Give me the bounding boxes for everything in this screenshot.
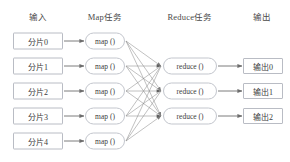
mapreduce-diagram: 输入Map任务Reduce任务输出 分片0分片1分片2分片3分片4 map ()…: [0, 0, 290, 162]
reduce-task-node-2: reduce (): [163, 108, 217, 125]
shuffle-arrowhead-0: [157, 64, 161, 68]
shuffle-line-m0-r1: [126, 41, 161, 91]
output-box-1-label: 输出1: [253, 86, 273, 97]
map-task-node-0-label: map (): [95, 37, 115, 46]
column-header-3-label: 输出: [253, 12, 271, 22]
reduce-task-node-1-label: reduce (): [177, 87, 204, 96]
input-split-box-1: 分片1: [13, 58, 63, 75]
input-split-box-1-label: 分片1: [28, 61, 48, 72]
map-task-node-2: map (): [85, 83, 125, 100]
map-task-node-4: map (): [85, 133, 125, 150]
shuffle-line-m3-r0: [126, 66, 161, 116]
shuffle-line-m4-r2: [126, 116, 161, 141]
column-header-0: 输入: [29, 10, 47, 22]
output-box-2: 输出2: [243, 108, 283, 124]
output-box-2-label: 输出2: [253, 111, 273, 122]
input-split-box-4-label: 分片4: [28, 136, 48, 147]
reduce-task-node-0-label: reduce (): [177, 62, 204, 71]
map-task-node-1: map (): [85, 58, 125, 75]
shuffle-line-m4-r0: [126, 66, 161, 141]
output-box-0: 输出0: [243, 58, 283, 74]
reduce-task-node-0: reduce (): [163, 58, 217, 75]
output-box-0-label: 输出0: [253, 61, 273, 72]
shuffle-line-m2-r0: [126, 66, 161, 91]
input-split-box-2-label: 分片2: [28, 86, 48, 97]
map-task-node-2-label: map (): [95, 87, 115, 96]
reduce-to-output-arrows: [218, 66, 242, 116]
column-header-3: 输出: [253, 10, 271, 22]
input-split-box-0-label: 分片0: [28, 36, 48, 47]
reduce-task-node-1: reduce (): [163, 83, 217, 100]
reduce-task-node-2-label: reduce (): [177, 112, 204, 121]
shuffle-lines: [126, 41, 161, 141]
shuffle-arrowhead-2: [157, 114, 161, 118]
shuffle-arrowhead-1: [157, 89, 161, 93]
shuffle-line-m3-r1: [126, 91, 161, 116]
shuffle-line-m0-r2: [126, 41, 161, 116]
input-split-box-4: 分片4: [13, 133, 63, 150]
map-task-node-0: map (): [85, 33, 125, 50]
column-header-2: Reduce任务: [167, 10, 212, 22]
map-task-node-4-label: map (): [95, 137, 115, 146]
shuffle-line-m4-r1: [126, 91, 161, 141]
map-task-node-3: map (): [85, 108, 125, 125]
column-header-1: Map任务: [88, 10, 123, 22]
column-header-1-label: Map任务: [88, 12, 123, 22]
column-header-2-label: Reduce任务: [167, 12, 212, 22]
input-split-box-0: 分片0: [13, 33, 63, 50]
input-split-box-3-label: 分片3: [28, 111, 48, 122]
input-to-map-arrows: [64, 41, 84, 141]
shuffle-line-m0-r0: [126, 41, 161, 66]
map-task-node-3-label: map (): [95, 112, 115, 121]
input-split-box-3: 分片3: [13, 108, 63, 125]
input-split-box-2: 分片2: [13, 83, 63, 100]
shuffle-line-m1-r2: [126, 66, 161, 116]
shuffle-line-m1-r1: [126, 66, 161, 91]
shuffle-line-m2-r2: [126, 91, 161, 116]
column-header-0-label: 输入: [29, 12, 47, 22]
output-box-1: 输出1: [243, 83, 283, 99]
map-task-node-1-label: map (): [95, 62, 115, 71]
